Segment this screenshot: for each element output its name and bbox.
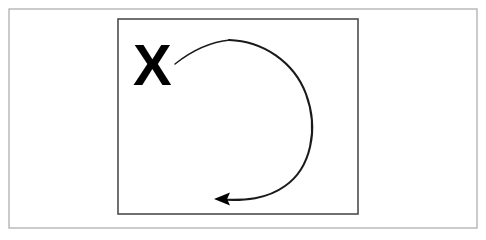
figure-root: X: [0, 0, 486, 240]
x-marker: X: [133, 32, 172, 97]
figure-canvas: X: [0, 0, 486, 240]
